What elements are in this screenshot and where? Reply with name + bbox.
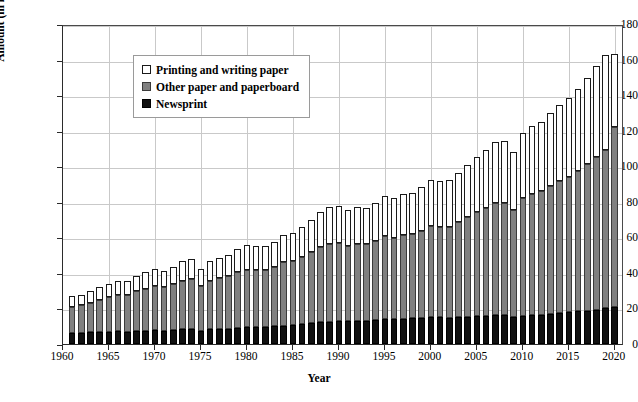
bar-segment bbox=[575, 171, 582, 311]
bar-segment bbox=[409, 193, 416, 235]
bar-segment bbox=[96, 287, 103, 299]
bar-segment bbox=[87, 332, 94, 344]
x-tick-label: 2005 bbox=[464, 350, 487, 362]
bar-segment bbox=[354, 321, 361, 344]
bar-group bbox=[556, 24, 563, 344]
x-tick-mark bbox=[338, 345, 339, 350]
bar-segment bbox=[179, 281, 186, 330]
bar-segment bbox=[262, 270, 269, 327]
bar-segment bbox=[133, 276, 140, 291]
bar-segment bbox=[529, 315, 536, 344]
bar-segment bbox=[69, 333, 76, 344]
bar-segment bbox=[584, 311, 591, 344]
bar-segment bbox=[161, 287, 168, 330]
bar-segment bbox=[345, 210, 352, 246]
bar-group bbox=[124, 24, 131, 344]
bar-group bbox=[363, 24, 370, 344]
bar-group bbox=[593, 24, 600, 344]
bar-segment bbox=[584, 78, 591, 164]
bar-group bbox=[69, 24, 76, 344]
bar-segment bbox=[152, 330, 159, 344]
x-tick-mark bbox=[246, 345, 247, 350]
bar-segment bbox=[317, 247, 324, 322]
bar-segment bbox=[409, 234, 416, 318]
bar-segment bbox=[354, 244, 361, 321]
bar-segment bbox=[225, 276, 232, 329]
bar-segment bbox=[455, 222, 462, 317]
bar-segment bbox=[437, 317, 444, 344]
bar-segment bbox=[290, 261, 297, 325]
bar-segment bbox=[501, 141, 508, 203]
bar-segment bbox=[198, 331, 205, 345]
x-tick-mark bbox=[384, 345, 385, 350]
x-tick-mark bbox=[430, 345, 431, 350]
plot-area: Printing and writing paper Other paper a… bbox=[62, 25, 623, 345]
bar-group bbox=[78, 24, 85, 344]
bar-segment bbox=[142, 289, 149, 331]
bar-segment bbox=[161, 331, 168, 345]
legend-label-printing: Printing and writing paper bbox=[156, 64, 289, 76]
bar-segment bbox=[391, 238, 398, 319]
bar-group bbox=[96, 24, 103, 344]
bar-segment bbox=[280, 235, 287, 262]
bar-group bbox=[409, 24, 416, 344]
bar-group bbox=[547, 24, 554, 344]
bar-group bbox=[474, 24, 481, 344]
x-tick-label: 1995 bbox=[372, 350, 395, 362]
bar-segment bbox=[207, 261, 214, 280]
bar-segment bbox=[409, 318, 416, 344]
bar-segment bbox=[492, 203, 499, 315]
bar-segment bbox=[372, 241, 379, 320]
bar-segment bbox=[529, 194, 536, 315]
bar-segment bbox=[299, 324, 306, 344]
bar-segment bbox=[188, 259, 195, 279]
black-square-swatch-icon bbox=[142, 99, 151, 108]
x-tick-label: 1960 bbox=[51, 350, 74, 362]
bar-segment bbox=[437, 227, 444, 317]
bar-segment bbox=[96, 332, 103, 344]
x-tick-label: 1970 bbox=[142, 350, 165, 362]
x-tick-label: 1985 bbox=[280, 350, 303, 362]
stacked-bar-chart: Amount (in million metric tonnes) 020406… bbox=[0, 0, 638, 402]
bar-segment bbox=[382, 196, 389, 237]
bar-segment bbox=[179, 329, 186, 344]
bar-segment bbox=[225, 329, 232, 344]
bar-segment bbox=[483, 150, 490, 208]
bar-segment bbox=[556, 105, 563, 181]
bar-segment bbox=[556, 313, 563, 344]
bar-segment bbox=[538, 122, 545, 192]
bar-segment bbox=[428, 180, 435, 227]
bar-group bbox=[602, 24, 609, 344]
bar-group bbox=[538, 24, 545, 344]
x-tick-mark bbox=[200, 345, 201, 350]
bar-segment bbox=[271, 326, 278, 344]
bar-group bbox=[464, 24, 471, 344]
bar-segment bbox=[520, 133, 527, 198]
bar-segment bbox=[446, 318, 453, 344]
bar-segment bbox=[253, 246, 260, 270]
bar-segment bbox=[244, 270, 251, 328]
bar-segment bbox=[547, 186, 554, 314]
bar-segment bbox=[400, 235, 407, 319]
bar-segment bbox=[96, 300, 103, 332]
x-tick-mark bbox=[154, 345, 155, 350]
bar-segment bbox=[391, 319, 398, 344]
bar-segment bbox=[483, 316, 490, 344]
bar-segment bbox=[520, 316, 527, 344]
bar-group bbox=[354, 24, 361, 344]
bar-segment bbox=[529, 126, 536, 194]
bar-group bbox=[510, 24, 517, 344]
bar-segment bbox=[474, 212, 481, 316]
bar-segment bbox=[170, 267, 177, 285]
bar-segment bbox=[106, 284, 113, 297]
bar-segment bbox=[198, 269, 205, 286]
y-axis-title: Amount (in million metric tonnes) bbox=[0, 0, 6, 78]
bar-segment bbox=[464, 317, 471, 344]
bar-segment bbox=[317, 322, 324, 344]
x-tick-mark bbox=[108, 345, 109, 350]
bar-segment bbox=[161, 271, 168, 288]
bar-group bbox=[455, 24, 462, 344]
bar-segment bbox=[115, 331, 122, 344]
white-square-swatch-icon bbox=[142, 65, 151, 74]
bar-group bbox=[382, 24, 389, 344]
